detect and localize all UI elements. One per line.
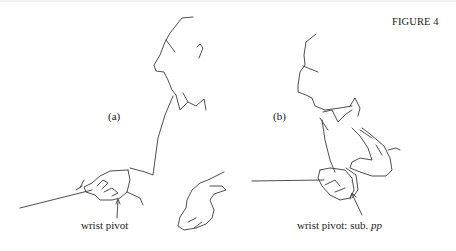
panel-b-collar: [320, 110, 352, 130]
panel-a-caption: wrist pivot: [81, 219, 128, 231]
figure-illustration: [0, 0, 456, 251]
panel-b-caption-prefix: wrist pivot: sub.: [297, 219, 368, 231]
panel-a-left-hand: [178, 172, 226, 230]
panel-b-arrow: [350, 193, 362, 215]
panel-a-eyebrow: [166, 40, 175, 52]
panel-b-baton: [252, 180, 324, 181]
panel-b-caption: wrist pivot: sub. pp: [297, 219, 382, 231]
panel-a-arrow: [116, 199, 120, 218]
panel-a-hand: [84, 170, 143, 205]
panel-b-body: [322, 120, 335, 172]
panel-a-body: [130, 96, 173, 175]
panel-a-baton: [20, 190, 92, 208]
panel-b-head-outline: [298, 34, 352, 110]
panel-b-ear: [350, 98, 360, 116]
panel-a-label: (a): [108, 110, 120, 122]
panel-b-brow: [303, 66, 318, 72]
panel-a-ear: [197, 44, 203, 58]
panel-a-bowtie: [176, 93, 206, 110]
panel-b-caption-dynamic: pp: [371, 219, 382, 231]
panel-a-head-outline: [154, 17, 193, 95]
panel-a-baton-tip: [76, 180, 84, 190]
panel-b-hand: [318, 168, 358, 200]
panel-b-label: (b): [273, 110, 286, 122]
panel-b-left-hand: [350, 128, 400, 176]
panel-b-drawing: [252, 34, 400, 215]
panel-a-drawing: [20, 17, 226, 230]
